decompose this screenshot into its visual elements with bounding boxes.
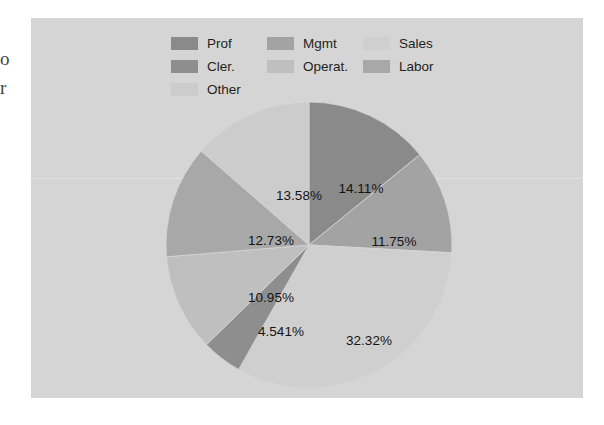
pie-slice-value-label: 11.75% [372,234,417,249]
pie-slice-value-label: 4.541% [258,324,304,339]
page-edge-clipped-text: or [0,44,22,102]
pie-slice-value-label: 12.73% [248,233,294,248]
page-edge-text-line: o [0,44,22,73]
pie-chart: 14.11%11.75%32.32%4.541%10.95%12.73%13.5… [31,18,583,398]
pie-slice-value-label: 32.32% [346,333,392,348]
page-edge-text-line: r [0,73,22,102]
figure-panel: ProfMgmtSalesCler.Operat.LaborOther 14.1… [31,18,583,398]
pie-slice-value-label: 14.11% [339,181,384,196]
pie-slice-value-label: 13.58% [276,188,322,203]
pie-slice-value-label: 10.95% [248,290,294,305]
